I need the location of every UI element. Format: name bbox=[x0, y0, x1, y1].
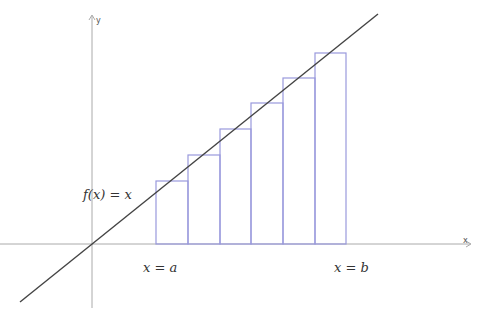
y-axis bbox=[89, 15, 95, 308]
riemann-rectangle bbox=[283, 78, 315, 244]
riemann-rectangle bbox=[156, 181, 188, 244]
x-axis-label: x bbox=[463, 236, 468, 245]
riemann-rectangle bbox=[251, 103, 283, 244]
y-axis-label: y bbox=[96, 16, 101, 25]
function-label: f(x) = x bbox=[83, 187, 132, 202]
function-line bbox=[20, 14, 378, 302]
riemann-rectangle bbox=[188, 155, 220, 244]
riemann-rectangle bbox=[220, 129, 251, 244]
riemann-rectangles bbox=[156, 53, 346, 244]
bound-b-label: x = b bbox=[334, 260, 369, 275]
bound-a-label: x = a bbox=[143, 260, 177, 275]
riemann-diagram bbox=[0, 0, 489, 324]
riemann-rectangle bbox=[315, 53, 346, 244]
